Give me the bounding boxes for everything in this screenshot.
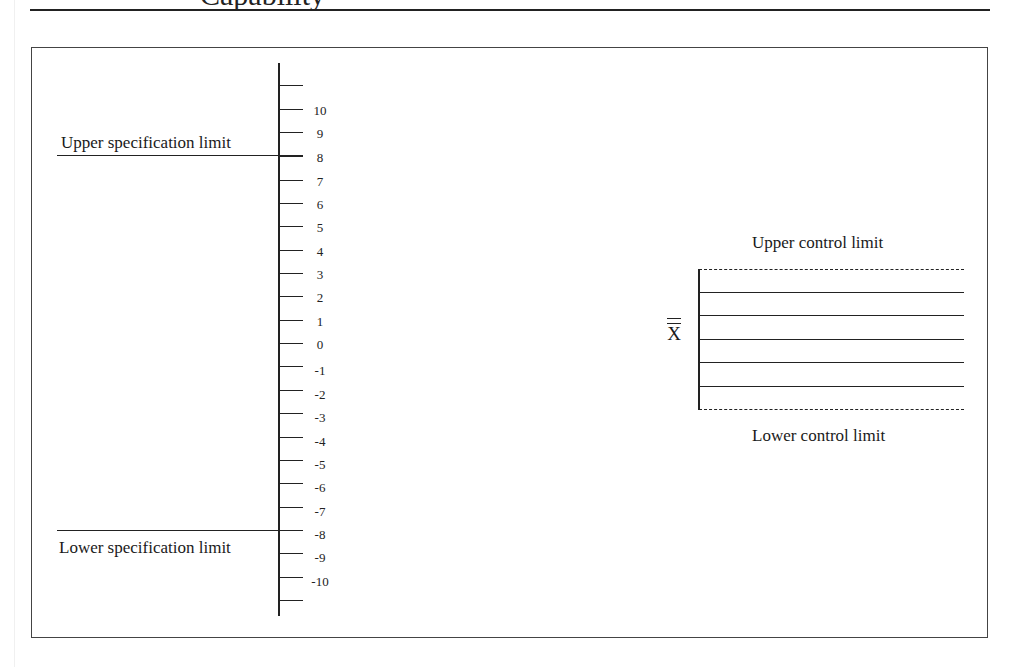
scale-tick-label: 1 (300, 315, 340, 329)
vertical-scale-axis (278, 63, 280, 616)
scale-tick-label: 3 (300, 268, 340, 282)
scale-tick-label: -5 (300, 458, 340, 472)
control-chart-axis (698, 269, 700, 410)
scale-tick-label: 8 (300, 151, 340, 165)
scale-tick-label: 4 (300, 245, 340, 259)
control-band-line (699, 292, 964, 293)
scale-tick-label: -4 (300, 435, 340, 449)
lower-spec-line (57, 530, 303, 531)
page-margin-shadow (14, 0, 15, 667)
lower-spec-label: Lower specification limit (59, 538, 231, 558)
scale-tick-label: 5 (300, 221, 340, 235)
scale-tick (279, 85, 303, 86)
scale-tick-label: 10 (300, 104, 340, 118)
upper-control-limit-label: Upper control limit (752, 233, 883, 253)
upper-spec-label: Upper specification limit (61, 133, 231, 153)
scale-tick-label: -8 (300, 528, 340, 542)
scale-tick-label: -7 (300, 505, 340, 519)
scale-tick-label: 9 (300, 127, 340, 141)
lower-control-limit-line (699, 409, 964, 410)
scale-tick (279, 600, 303, 601)
lower-control-limit-label: Lower control limit (752, 426, 885, 446)
scale-tick-label: -3 (300, 411, 340, 425)
upper-control-limit-line (699, 269, 964, 270)
control-band-line (699, 315, 964, 316)
scale-tick-label: 0 (300, 338, 340, 352)
x-glyph: X (665, 325, 683, 343)
center-line (699, 339, 964, 340)
scale-tick-label: -2 (300, 388, 340, 402)
control-band-line (699, 362, 964, 363)
header-rule (30, 9, 990, 11)
scale-tick-label: 6 (300, 198, 340, 212)
scale-tick-label: -10 (300, 575, 340, 589)
control-band-line (699, 386, 964, 387)
scale-tick-label: 2 (300, 291, 340, 305)
upper-spec-line (57, 155, 303, 156)
scale-tick-label: 7 (300, 175, 340, 189)
scale-tick-label: -6 (300, 481, 340, 495)
scale-tick-label: -1 (300, 364, 340, 378)
x-double-bar-symbol: X (665, 318, 683, 343)
scale-tick-label: -9 (300, 551, 340, 565)
